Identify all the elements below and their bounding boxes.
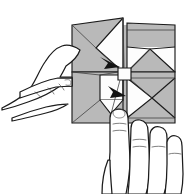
left-hand xyxy=(2,45,80,121)
flap-top-left xyxy=(72,18,123,72)
origami-diagram-svg xyxy=(0,0,185,194)
center-square xyxy=(118,68,131,80)
illustration-canvas: Origami folding step diagram Square shee… xyxy=(0,0,185,194)
folded-paper-square xyxy=(72,18,175,123)
flap-top-right xyxy=(123,18,175,72)
